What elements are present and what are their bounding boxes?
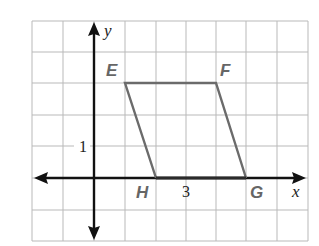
vertex-label-e: E: [106, 61, 118, 80]
vertex-label-h: H: [136, 183, 149, 202]
vertex-label-f: F: [220, 61, 231, 80]
y-axis-down-arrow-icon: [88, 226, 100, 240]
y-unit-label: 1: [79, 138, 87, 155]
grid: [32, 21, 308, 241]
segment-length-label: 3: [182, 183, 190, 200]
coordinate-plane: 1 y x E F G H 3: [0, 0, 319, 246]
x-axis-left-arrow-icon: [34, 172, 48, 184]
vertex-label-g: G: [250, 183, 263, 202]
y-axis-label: y: [102, 21, 112, 40]
x-axis-label: x: [291, 182, 300, 201]
y-axis-up-arrow-icon: [88, 22, 100, 36]
